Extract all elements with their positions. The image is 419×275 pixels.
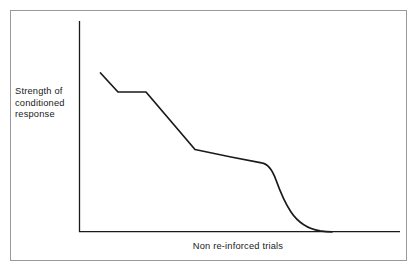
x-axis-label: Non re-inforced trials	[82, 241, 394, 251]
figure-container: Strength of conditioned response Non re-…	[0, 0, 419, 275]
extinction-curve	[101, 73, 333, 232]
line-chart-svg	[0, 0, 419, 275]
y-axis-label-line-2: conditioned	[15, 98, 81, 110]
chart-plot-area	[0, 0, 419, 275]
y-axis-label: Strength of conditioned response	[15, 86, 81, 121]
y-axis-label-line-1: Strength of	[15, 86, 81, 98]
y-axis-label-line-3: response	[15, 109, 81, 121]
